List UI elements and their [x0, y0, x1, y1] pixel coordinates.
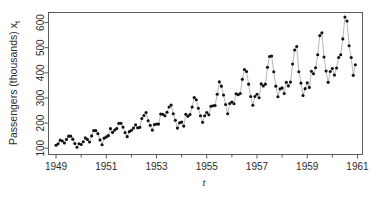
data-point: [329, 70, 332, 73]
data-point: [172, 112, 175, 115]
data-point: [314, 66, 317, 69]
data-point: [274, 85, 277, 88]
data-point: [239, 92, 242, 95]
data-point: [57, 142, 60, 145]
data-point: [352, 74, 355, 77]
data-point: [174, 119, 177, 122]
data-point: [88, 140, 91, 143]
data-point: [333, 74, 336, 77]
data-point: [203, 114, 206, 117]
data-point: [224, 103, 227, 106]
data-point: [195, 98, 198, 101]
data-point: [216, 93, 219, 96]
data-point: [144, 111, 147, 114]
data-point: [318, 34, 321, 37]
data-point: [287, 84, 290, 87]
data-point: [301, 94, 304, 97]
data-point: [188, 113, 191, 116]
chart-screenshot: 100200300400500600 194919511953195519571…: [0, 0, 381, 197]
data-point: [343, 15, 346, 18]
data-point: [276, 95, 279, 98]
data-point: [266, 66, 269, 69]
data-point: [207, 113, 210, 116]
data-point: [291, 62, 294, 65]
data-point: [80, 143, 83, 146]
data-point: [96, 132, 99, 135]
data-point: [163, 114, 166, 117]
data-point: [101, 143, 104, 146]
data-point: [218, 80, 221, 83]
data-point: [75, 146, 78, 149]
data-point: [149, 124, 152, 127]
data-point: [65, 138, 68, 141]
data-point: [281, 86, 284, 89]
data-point: [142, 114, 145, 117]
y-tick-label-600: 600: [35, 14, 46, 31]
data-point: [339, 53, 342, 56]
data-point: [176, 127, 179, 130]
y-tick-label-300: 300: [35, 89, 46, 106]
data-point: [94, 129, 97, 132]
data-point: [320, 31, 323, 34]
data-point: [134, 123, 137, 126]
data-point: [310, 70, 313, 73]
x-tick-label-1955: 1955: [196, 161, 219, 172]
data-point: [295, 45, 298, 48]
data-point: [165, 111, 168, 114]
data-point: [214, 104, 217, 107]
data-point: [354, 63, 357, 66]
airpassengers-chart: 100200300400500600 194919511953195519571…: [0, 0, 381, 197]
data-point: [312, 72, 315, 75]
data-point: [341, 37, 344, 40]
data-point: [251, 104, 254, 107]
x-tick-label-1953: 1953: [145, 161, 168, 172]
data-point: [241, 78, 244, 81]
data-point: [258, 96, 261, 99]
y-tick-label-400: 400: [35, 64, 46, 81]
data-point: [345, 20, 348, 23]
data-point: [245, 70, 248, 73]
data-point: [270, 54, 273, 57]
y-tick-label-500: 500: [35, 39, 46, 56]
data-point: [119, 122, 122, 125]
data-point: [222, 93, 225, 96]
data-point: [140, 117, 143, 120]
data-point: [350, 56, 353, 59]
data-point: [82, 140, 85, 143]
data-point: [348, 44, 351, 47]
data-point: [73, 142, 76, 145]
y-tick-label-200: 200: [35, 114, 46, 131]
data-point: [272, 70, 275, 73]
data-point: [121, 126, 124, 129]
data-point: [325, 70, 328, 73]
data-point: [304, 87, 307, 90]
data-point: [90, 134, 93, 137]
data-point: [316, 53, 319, 56]
data-point: [289, 81, 292, 84]
data-point: [170, 103, 173, 106]
data-point: [151, 129, 154, 132]
data-point: [220, 85, 223, 88]
data-point: [197, 107, 200, 110]
data-point: [264, 83, 267, 86]
data-point: [255, 93, 258, 96]
x-tick-label-1961: 1961: [346, 161, 369, 172]
data-point: [71, 138, 74, 141]
x-tick-label-1959: 1959: [296, 161, 319, 172]
data-point: [226, 112, 229, 115]
data-point: [293, 48, 296, 51]
data-point: [124, 131, 127, 134]
data-point: [327, 81, 330, 84]
data-point: [138, 126, 141, 129]
data-point: [247, 83, 250, 86]
data-point: [132, 127, 135, 130]
data-point: [201, 121, 204, 124]
data-point: [283, 92, 286, 95]
data-point: [335, 66, 338, 69]
data-point: [98, 138, 101, 141]
x-tick-label-1951: 1951: [95, 161, 118, 172]
data-point: [147, 119, 150, 122]
data-point: [299, 82, 302, 85]
data-point: [285, 81, 288, 84]
data-point: [331, 67, 334, 70]
